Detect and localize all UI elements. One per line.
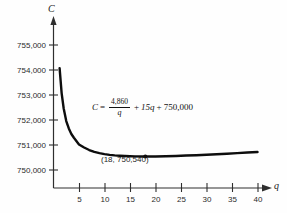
x-axis-arrow-icon bbox=[262, 185, 272, 192]
x-tick-label-35: 35 bbox=[221, 195, 245, 204]
y-tick-label-754000: 754,000 bbox=[6, 66, 46, 75]
cost-function-chart: C q 755,000 754,000 753,000 752,000 751,… bbox=[0, 0, 287, 213]
x-tick-label-15: 15 bbox=[119, 195, 143, 204]
equation-plus-two: + bbox=[155, 102, 164, 112]
equation-annotation: C = 4,860 q + 15q + 750,000 bbox=[92, 98, 193, 117]
y-tick-label-750000: 750,000 bbox=[6, 166, 46, 175]
x-tick-label-25: 25 bbox=[170, 195, 194, 204]
x-tick-label-5: 5 bbox=[68, 195, 92, 204]
equation-fraction: 4,860 q bbox=[109, 98, 130, 117]
y-axis-label: C bbox=[48, 3, 55, 14]
x-tick-label-40: 40 bbox=[246, 195, 270, 204]
y-tick-label-755000: 755,000 bbox=[6, 41, 46, 50]
y-tick-label-751000: 751,000 bbox=[6, 141, 46, 150]
equation-equals: = bbox=[98, 102, 107, 112]
minimum-point-label: (18, 750,540) bbox=[101, 155, 149, 164]
equation-numerator: 4,860 bbox=[109, 98, 130, 107]
equation-plus-one: + bbox=[132, 102, 141, 112]
x-axis-label: q bbox=[274, 180, 279, 191]
y-axis-arrow-icon bbox=[50, 16, 56, 25]
equation-constant: 750,000 bbox=[164, 102, 193, 112]
x-tick-label-10: 10 bbox=[93, 195, 117, 204]
equation-denominator: q bbox=[116, 108, 124, 117]
x-tick-label-30: 30 bbox=[195, 195, 219, 204]
y-tick-label-752000: 752,000 bbox=[6, 116, 46, 125]
x-tick-label-20: 20 bbox=[144, 195, 168, 204]
equation-linear-term: 15q bbox=[141, 102, 155, 112]
y-tick-label-753000: 753,000 bbox=[6, 91, 46, 100]
